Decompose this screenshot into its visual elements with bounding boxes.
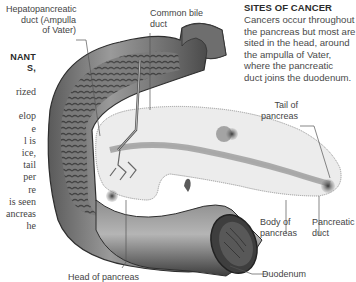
label-line: Head of pancreas	[68, 272, 139, 282]
sidebar-line: sited in the head, around	[244, 37, 356, 49]
body-line: is seen	[0, 196, 36, 208]
sites-of-cancer-sidebar: SITES OF CANCER Cancers occur throughout…	[244, 2, 356, 84]
body-line: elop	[0, 110, 36, 122]
sidebar-title: SITES OF CANCER	[244, 2, 356, 14]
body-line: ice,	[0, 147, 36, 159]
body-line: e	[0, 123, 36, 135]
label-body-of-pancreas: Body of pancreas	[260, 217, 297, 238]
label-line: Hepatopancreatic	[6, 4, 76, 15]
label-duodenum: Duodenum	[262, 269, 306, 280]
sidebar-line: Cancers occur throughout	[244, 14, 356, 26]
label-line: Tail of	[254, 100, 298, 111]
body-line: l is	[0, 135, 36, 147]
label-common-bile-duct: Common bile duct	[150, 8, 203, 29]
label-line: duct	[312, 228, 355, 239]
sidebar-line: where the pancreatic	[244, 60, 356, 72]
body-line: ancreas	[0, 208, 36, 220]
body-line: rized	[0, 86, 36, 98]
body-line: he	[0, 220, 36, 232]
body-line: tail	[0, 159, 36, 171]
body-line: re	[0, 184, 36, 196]
sidebar-line: the ampulla of Vater,	[244, 49, 356, 61]
left-body-text: rized elop e l is ice, tail per re is se…	[0, 86, 36, 232]
sidebar-line: the pancreas but most are	[244, 26, 356, 38]
body-line: per	[0, 171, 36, 183]
heading-line: S,	[27, 63, 36, 73]
heading-line: NANT	[10, 52, 36, 62]
label-line: pancreas	[254, 111, 298, 122]
label-line: pancreas	[260, 228, 297, 239]
label-line: of Vater)	[6, 25, 76, 36]
label-line: Duodenum	[262, 269, 306, 280]
sidebar-body: Cancers occur throughout the pancreas bu…	[244, 14, 356, 84]
label-head-of-pancreas: Head of pancreas	[68, 272, 139, 282]
label-line: duct	[150, 19, 203, 30]
book-page: NANT S, rized elop e l is ice, tail per …	[0, 0, 356, 282]
left-heading: NANT S,	[0, 52, 36, 74]
left-text-column: NANT S, rized elop e l is ice, tail per …	[0, 52, 36, 232]
sidebar-line: duct joins the duodenum.	[244, 72, 356, 84]
label-line: duct (Ampulla	[6, 15, 76, 26]
label-tail-of-pancreas: Tail of pancreas	[254, 100, 298, 121]
label-line: Pancreatic	[312, 217, 355, 228]
label-line: Body of	[260, 217, 297, 228]
label-line: Common bile	[150, 8, 203, 19]
body-line	[0, 98, 36, 110]
label-hepatopancreatic-duct: Hepatopancreatic duct (Ampulla of Vater)	[6, 4, 76, 36]
label-pancreatic-duct: Pancreatic duct	[312, 217, 355, 238]
